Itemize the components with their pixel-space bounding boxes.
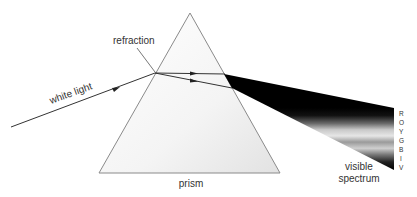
spectrum-letter-y: Y — [399, 128, 404, 135]
white-light-label: white light — [47, 80, 94, 106]
prism-label: prism — [179, 178, 203, 189]
spectrum-letter-v: V — [399, 164, 404, 171]
spectrum-letters: R O Y G B I V — [399, 110, 404, 171]
spectrum-letter-i: I — [400, 155, 402, 162]
spectrum-letter-g: G — [399, 137, 404, 144]
refraction-leader-line — [137, 48, 155, 72]
spectrum-label: spectrum — [338, 173, 379, 184]
white-light-arrow-icon — [112, 87, 120, 92]
refraction-label: refraction — [113, 35, 155, 46]
spectrum-letter-o: O — [399, 119, 404, 126]
spectrum-letter-b: B — [399, 146, 403, 153]
spectrum-letter-r: R — [399, 110, 404, 117]
prism-diagram: refraction white light prism visible spe… — [0, 0, 417, 197]
visible-label: visible — [345, 161, 373, 172]
